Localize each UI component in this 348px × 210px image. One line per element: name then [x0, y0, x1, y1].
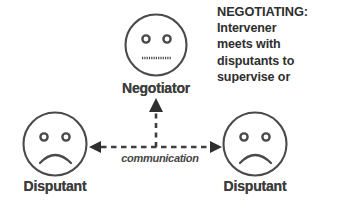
- neutral-face-icon: [122, 12, 190, 80]
- communication-label: communication: [104, 152, 216, 164]
- caption-line-3: disputants to: [217, 53, 345, 69]
- node-disputant-right[interactable]: Disputant: [220, 110, 290, 180]
- sad-face-icon: [220, 110, 290, 180]
- escalation-connector: [149, 98, 163, 147]
- caption-block: NEGOTIATING: Intervener meets with dispu…: [217, 4, 345, 83]
- node-disputant-left-label: Disputant: [24, 178, 87, 194]
- escalation-arrowhead-up: [149, 98, 163, 112]
- caption-line-2: meets with: [217, 36, 345, 52]
- node-negotiator-label: Negotiator: [122, 80, 190, 96]
- node-disputant-right-label: Disputant: [224, 178, 287, 194]
- caption-line-4: supervise or: [217, 69, 345, 83]
- caption-heading: NEGOTIATING:: [217, 4, 345, 20]
- node-disputant-left[interactable]: Disputant: [20, 110, 90, 180]
- node-negotiator[interactable]: Negotiator: [122, 12, 190, 80]
- caption-line-1: Intervener: [217, 20, 345, 36]
- communication-arrowhead-left: [89, 141, 101, 153]
- sad-face-icon: [20, 110, 90, 180]
- diagram-canvas: communication Negotiator Disputant Dispu…: [0, 0, 348, 210]
